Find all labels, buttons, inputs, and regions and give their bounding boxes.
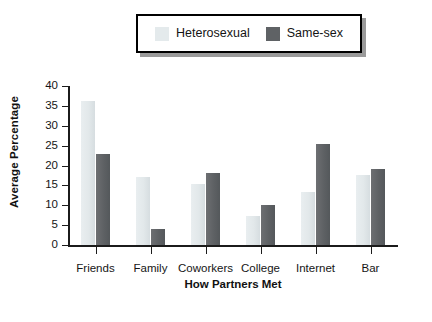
y-axis-tick-label: 0 xyxy=(52,238,58,251)
bar-same-sex-family xyxy=(151,229,165,245)
chart-legend: Heterosexual Same-sex xyxy=(136,14,362,53)
y-axis-tick-label: 10 xyxy=(45,198,58,211)
bar-same-sex-friends xyxy=(96,154,110,245)
y-axis-tick-label: 5 xyxy=(52,218,58,231)
bar-heterosexual-family xyxy=(136,177,150,245)
bar-group xyxy=(191,173,221,245)
bar-group xyxy=(246,205,276,245)
y-axis-tick: 10 xyxy=(62,205,68,206)
bar-same-sex-college xyxy=(261,205,275,245)
bar-group xyxy=(301,144,331,245)
bar-heterosexual-bar xyxy=(356,175,370,245)
plot-area: 0510152025303540 FriendsFamilyCoworkersC… xyxy=(68,86,398,247)
x-axis-tick xyxy=(316,247,317,254)
y-axis-tick-label: 35 xyxy=(45,99,58,112)
x-axis-tick xyxy=(206,247,207,254)
x-axis-line xyxy=(68,245,398,247)
bar-same-sex-internet xyxy=(316,144,330,245)
legend-label-same-sex: Same-sex xyxy=(287,27,343,40)
bar-same-sex-coworkers xyxy=(206,173,220,245)
y-axis-tick: 25 xyxy=(62,146,68,147)
bar-group xyxy=(136,177,166,245)
legend-entry-heterosexual: Heterosexual xyxy=(155,27,250,41)
y-axis-title: Average Percentage xyxy=(8,72,20,232)
y-axis-tick-label: 40 xyxy=(45,79,58,92)
y-axis-tick: 0 xyxy=(62,245,68,246)
x-axis-tick xyxy=(96,247,97,254)
legend-swatch-same-sex xyxy=(266,27,280,41)
x-axis-title: How Partners Met xyxy=(68,278,398,290)
y-axis-tick: 20 xyxy=(62,166,68,167)
y-axis-tick: 15 xyxy=(62,185,68,186)
bar-heterosexual-college xyxy=(246,216,260,245)
y-axis-tick-label: 25 xyxy=(45,139,58,152)
bar-group xyxy=(356,169,386,245)
y-axis-tick: 30 xyxy=(62,126,68,127)
bar-group xyxy=(81,101,111,245)
bar-heterosexual-friends xyxy=(81,101,95,245)
y-axis-tick: 5 xyxy=(62,225,68,226)
legend-entry-same-sex: Same-sex xyxy=(266,27,343,41)
legend-label-heterosexual: Heterosexual xyxy=(176,27,250,40)
bar-chart: Average Percentage 0510152025303540 Frie… xyxy=(0,60,432,322)
y-axis-tick-label: 20 xyxy=(45,159,58,172)
y-axis-tick: 35 xyxy=(62,106,68,107)
y-axis-tick: 40 xyxy=(62,86,68,87)
x-axis-tick xyxy=(261,247,262,254)
x-axis-tick xyxy=(371,247,372,254)
bar-same-sex-bar xyxy=(371,169,385,245)
x-axis-tick xyxy=(151,247,152,254)
y-axis-tick-label: 30 xyxy=(45,119,58,132)
y-axis-line xyxy=(68,86,70,247)
y-axis-tick-label: 15 xyxy=(45,178,58,191)
legend-swatch-heterosexual xyxy=(155,27,169,41)
bar-heterosexual-coworkers xyxy=(191,184,205,245)
bar-heterosexual-internet xyxy=(301,192,315,245)
x-axis-label-bar: Bar xyxy=(331,262,411,275)
